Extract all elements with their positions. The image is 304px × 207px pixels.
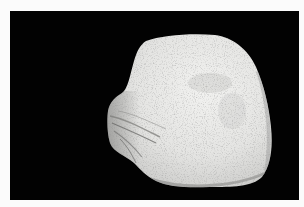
rock-image xyxy=(10,11,299,200)
rock-body xyxy=(100,26,280,196)
photograph: Photograph of a pale, rough-textured roc… xyxy=(10,11,299,200)
